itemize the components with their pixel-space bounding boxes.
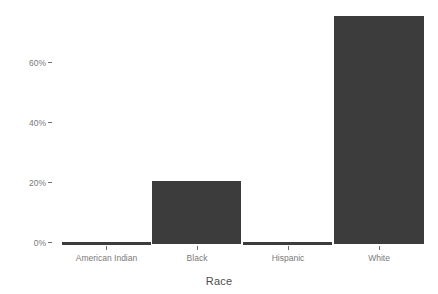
x-tick-label-american-indian: American Indian [61, 253, 152, 264]
x-tick-mark-black [197, 246, 198, 250]
bar-white [334, 16, 424, 244]
y-tick-label-3: 60% [29, 58, 46, 68]
x-tick-black: Black [152, 246, 242, 272]
bar-american-indian [62, 242, 151, 245]
bar-black [152, 181, 241, 244]
y-tick-mark-0 [48, 242, 52, 243]
x-tick-label-black: Black [152, 253, 242, 264]
x-tick-american-indian: American Indian [61, 246, 152, 272]
bar-chart-figure: . Percent Race 0% 20% 40% 60% American I… [0, 0, 438, 294]
y-tick-2: 40% [0, 118, 55, 128]
y-tick-3: 60% [0, 58, 55, 68]
x-tick-label-hispanic: Hispanic [243, 253, 333, 264]
clipped-title-fragment: . [60, 0, 260, 3]
x-tick-mark-hispanic [288, 246, 289, 250]
y-tick-label-0: 0% [34, 238, 46, 248]
y-tick-label-2: 40% [29, 118, 46, 128]
y-tick-mark-3 [48, 62, 52, 63]
y-tick-mark-1 [48, 182, 52, 183]
x-tick-label-white: White [334, 253, 424, 264]
y-tick-label-1: 20% [29, 178, 46, 188]
y-tick-0: 0% [0, 238, 55, 248]
x-axis-title: Race [0, 275, 438, 287]
y-tick-mark-2 [48, 122, 52, 123]
x-tick-mark-american-indian [106, 246, 107, 250]
y-tick-1: 20% [0, 178, 55, 188]
x-tick-white: White [334, 246, 424, 272]
bar-hispanic [243, 242, 332, 245]
x-tick-hispanic: Hispanic [243, 246, 333, 272]
x-tick-mark-white [379, 246, 380, 250]
